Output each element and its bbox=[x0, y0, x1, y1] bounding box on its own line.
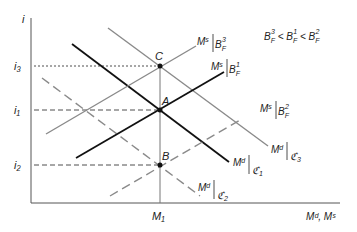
x-axis-label: Mᵈ, Mˢ bbox=[306, 211, 336, 222]
tick-i2: i₂ bbox=[14, 159, 21, 171]
svg-text:ℭ2: ℭ2 bbox=[217, 190, 228, 202]
point-b bbox=[158, 163, 163, 168]
svg-text:Ms: Ms bbox=[260, 103, 272, 114]
svg-text:Ms: Ms bbox=[211, 61, 223, 72]
money-market-diagram: C A B i i₃ i₁ i₂ M₁ Mᵈ, Mˢ BF3 < BF1 < B… bbox=[0, 0, 357, 232]
label-md-c2: Md ℭ2 bbox=[198, 180, 228, 202]
label-c: C bbox=[155, 50, 163, 62]
svg-text:Md: Md bbox=[271, 144, 284, 155]
md-c1-curve bbox=[72, 44, 229, 162]
ms-b2-curve bbox=[110, 120, 240, 196]
label-md-c1: Md ℭ1 bbox=[233, 155, 263, 177]
svg-text:BF1: BF1 bbox=[229, 61, 241, 77]
label-a: A bbox=[161, 95, 169, 107]
svg-text:Md: Md bbox=[233, 157, 246, 168]
svg-text:Ms: Ms bbox=[197, 36, 209, 47]
ms-b1-curve bbox=[76, 72, 224, 158]
tick-i1: i₁ bbox=[14, 104, 20, 116]
y-axis-label: i bbox=[22, 13, 25, 25]
point-a bbox=[158, 108, 163, 113]
svg-text:BF2: BF2 bbox=[278, 103, 290, 119]
label-b: B bbox=[162, 150, 169, 162]
svg-text:ℭ1: ℭ1 bbox=[252, 165, 263, 177]
svg-text:ℭ3: ℭ3 bbox=[290, 151, 301, 163]
label-ms-b2: Ms BF2 bbox=[260, 101, 290, 119]
label-ms-b1: Ms BF1 bbox=[211, 59, 241, 77]
md-c2-curve bbox=[42, 78, 200, 196]
label-ms-b3: Ms BF3 bbox=[197, 34, 227, 52]
svg-text:Md: Md bbox=[198, 182, 211, 193]
md-c3-curve bbox=[108, 28, 268, 146]
point-c bbox=[158, 64, 163, 69]
svg-text:BF3: BF3 bbox=[215, 36, 227, 52]
inequality-label: BF3 < BF1 < BF2 bbox=[264, 25, 320, 44]
tick-i3: i₃ bbox=[14, 60, 21, 72]
label-md-c3: Md ℭ3 bbox=[271, 142, 301, 163]
tick-m1: M₁ bbox=[152, 210, 165, 222]
